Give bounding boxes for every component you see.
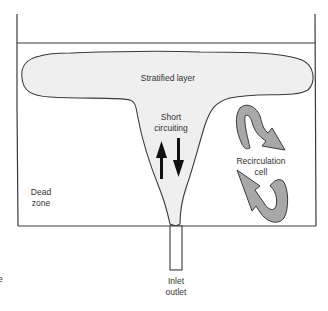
stratified-layer-label: Stratified layer [141,73,195,83]
tank-right-wall [315,14,316,226]
edge-text-fragment: e [0,274,3,284]
tank-left-wall-lower [17,106,18,226]
dead-zone-label-2: zone [32,198,51,208]
short-circuiting-label-2: circuiting [154,123,188,133]
short-circuiting-label-1: Short [161,112,182,122]
inlet-label-2: outlet [166,287,187,297]
recirculation-label-2: cell [255,167,268,177]
inlet-label-1: Inlet [168,276,185,286]
curved-arrow-up-left-icon [237,170,288,222]
curved-arrow-down-right-icon [236,105,285,150]
tank-flow-diagram: Stratified layer Short circuiting Recirc… [0,0,328,311]
recirculation-label-1: Recirculation [236,156,285,166]
inlet-pipe [170,226,182,270]
dead-zone-label-1: Dead [31,187,52,197]
